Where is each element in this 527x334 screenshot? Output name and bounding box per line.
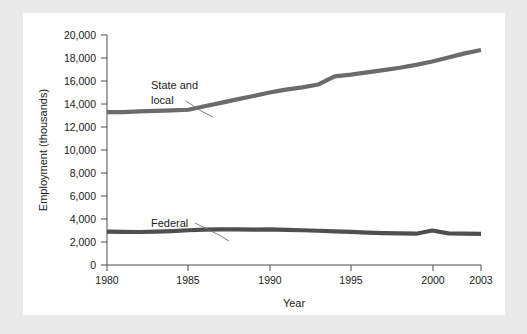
annotation-federal-line1: Federal	[151, 217, 188, 229]
y-tick-label-10000: 10,000	[64, 144, 96, 156]
annotation-state-and-local-line2: local	[151, 94, 174, 106]
series-line-federal	[107, 229, 481, 234]
y-tick-label-2000: 2,000	[70, 236, 96, 248]
y-tick-label-14000: 14,000	[64, 98, 96, 110]
x-axis-title: Year	[283, 297, 306, 309]
x-tick-label-1980: 1980	[95, 274, 119, 286]
y-tick-label-16000: 16,000	[64, 75, 96, 87]
x-tick-label-2003: 2003	[469, 274, 493, 286]
y-tick-label-4000: 4,000	[70, 213, 96, 225]
y-tick-label-12000: 12,000	[64, 121, 96, 133]
figure-panel: 0 2,000 4,000 6,000 8,000 10,000 12,000 …	[23, 13, 505, 315]
y-axis-title: Employment (thousands)	[37, 89, 49, 211]
y-tick-label-0: 0	[90, 259, 96, 271]
y-tick-label-20000: 20,000	[64, 29, 96, 41]
y-axis-ticks: 0 2,000 4,000 6,000 8,000 10,000 12,000 …	[64, 29, 107, 271]
x-tick-label-2000: 2000	[421, 274, 445, 286]
x-tick-label-1995: 1995	[339, 274, 363, 286]
annotation-federal-leader	[195, 223, 229, 241]
y-tick-label-6000: 6,000	[70, 190, 96, 202]
employment-line-chart: 0 2,000 4,000 6,000 8,000 10,000 12,000 …	[23, 13, 505, 315]
y-tick-label-18000: 18,000	[64, 52, 96, 64]
x-tick-label-1990: 1990	[258, 274, 282, 286]
x-axis-ticks: 1980 1985 1990 1995 2000 2003	[95, 265, 493, 286]
annotation-state-and-local-line1: State and	[151, 79, 198, 91]
y-tick-label-8000: 8,000	[70, 167, 96, 179]
x-tick-label-1985: 1985	[176, 274, 200, 286]
